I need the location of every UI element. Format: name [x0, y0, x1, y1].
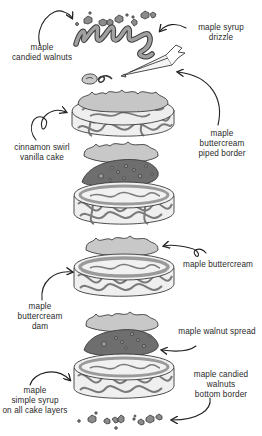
label-cake: cinnamon swirl vanilla cake — [4, 143, 80, 163]
filling-c — [84, 312, 158, 356]
candied-walnuts-bottom-icon — [78, 412, 162, 430]
cake-layer-4 — [74, 354, 174, 398]
label-candied-walnuts: maple candied walnuts — [2, 43, 82, 63]
arrow-bottom-border — [172, 398, 210, 420]
piping-bag-icon — [121, 45, 185, 77]
label-piped-border: maple buttercream piped border — [190, 129, 254, 159]
buttercream-piped-border-icon — [78, 90, 168, 112]
label-simple-syrup: maple simple syrup on all cake layers — [0, 386, 70, 416]
cake-layer-1 — [72, 90, 174, 136]
label-syrup-drizzle: maple syrup drizzle — [186, 23, 256, 43]
piped-swirl-icon — [82, 74, 112, 84]
filling-a — [82, 142, 158, 186]
label-buttercream-dam: maple buttercream dam — [12, 302, 68, 332]
syrup-drizzle-icon — [76, 27, 152, 57]
label-buttercream: maple buttercream — [176, 260, 260, 270]
arrow-candied-walnuts — [39, 11, 72, 45]
arrow-buttercream-dam — [42, 272, 72, 300]
arrow-walnut-spread — [162, 346, 196, 351]
arrow-piped-border — [178, 72, 219, 125]
arrow-cake — [31, 110, 66, 140]
candied-walnuts-top-icon — [76, 11, 157, 26]
arrow-simple-syrup — [30, 372, 70, 385]
arrow-buttercream — [164, 245, 206, 256]
cake-layer-3 — [74, 254, 174, 296]
filling-b — [86, 236, 158, 256]
label-walnut-spread: maple walnut spread — [172, 327, 262, 337]
arrow-syrup-drizzle — [160, 24, 186, 31]
cake-diagram: maple candied walnuts maple syrup drizzl… — [0, 0, 262, 436]
label-bottom-border: maple candied walnuts bottom border — [184, 370, 258, 400]
cake-layer-2 — [74, 182, 174, 224]
